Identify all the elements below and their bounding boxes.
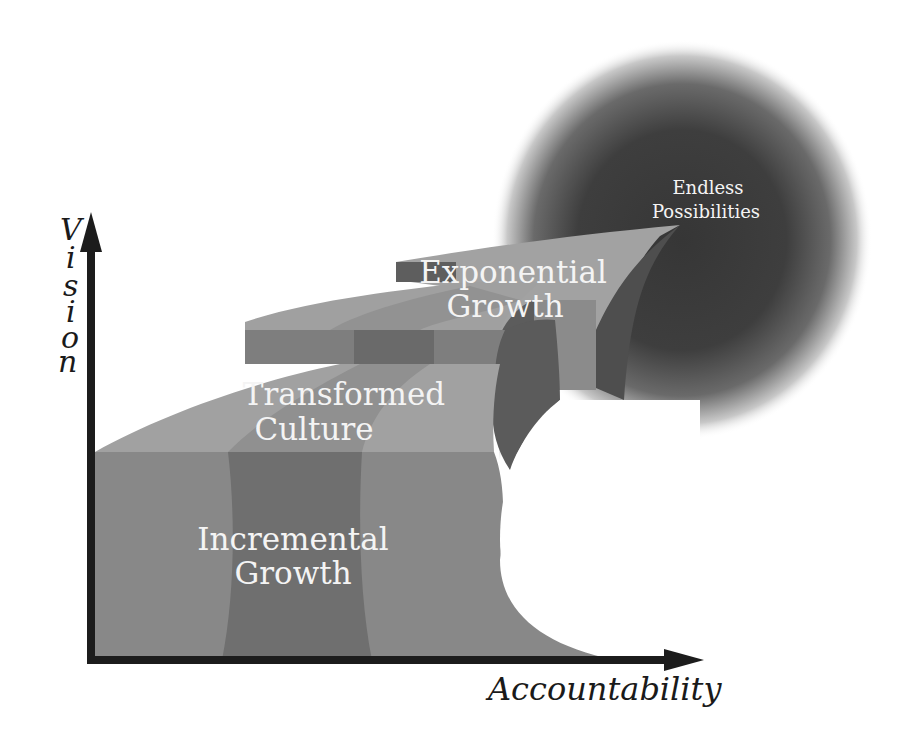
svg-text:Transformed: Transformed [243,376,445,412]
diagram-canvas: V i s i o n Accountability Incremental G… [0,0,898,752]
svg-text:Incremental: Incremental [197,521,388,557]
y-axis-label: V i s i o n [58,212,85,379]
svg-text:Culture: Culture [254,411,373,447]
svg-text:Exponential: Exponential [419,254,607,290]
svg-text:Growth: Growth [446,288,563,324]
svg-text:Growth: Growth [234,555,351,591]
svg-text:Endless: Endless [672,177,743,198]
y-label-letter: n [58,344,77,379]
svg-text:Possibilities: Possibilities [652,201,760,222]
y-axis-arrow-icon [80,212,102,252]
x-axis-label: Accountability [485,670,722,708]
growth-diagram: V i s i o n Accountability Incremental G… [0,0,898,752]
